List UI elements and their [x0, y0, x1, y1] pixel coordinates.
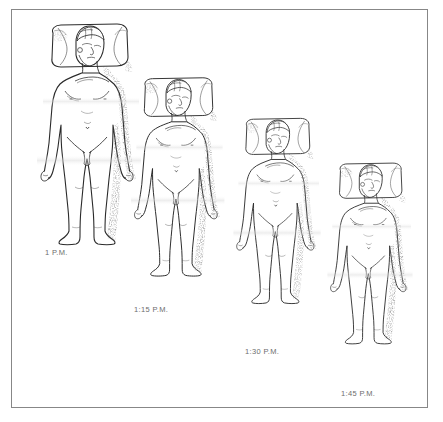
plate-border: 1 P.M. 1:15 P.M. 1:30 P.M. 1:45 P.M. [11, 9, 428, 408]
supine-figure-4 [319, 159, 416, 349]
time-label-3: 1:30 P.M. [245, 347, 279, 356]
time-label-4: 1:45 P.M. [341, 389, 375, 398]
time-label-2: 1:15 P.M. [134, 305, 168, 314]
illustration-plate: 1 P.M. 1:15 P.M. 1:30 P.M. 1:45 P.M. [0, 0, 443, 422]
supine-figure-3 [225, 114, 324, 309]
supine-figure-2 [122, 73, 228, 282]
figure-panel-2 [122, 73, 228, 282]
figure-panel-4 [319, 159, 416, 349]
figure-panel-3 [225, 114, 324, 309]
time-label-1: 1 P.M. [45, 248, 68, 257]
